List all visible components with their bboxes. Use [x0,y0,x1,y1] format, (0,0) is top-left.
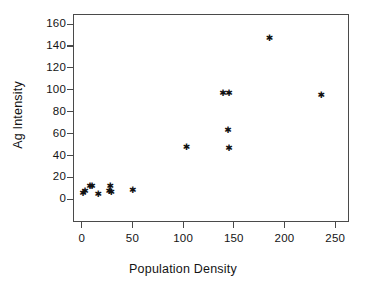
y-tick-label: 160 [46,17,66,29]
x-tick-label: 250 [325,232,345,244]
scatter-plot-figure: ✱✱✱✱✱✱✱✱✱✱✱✱✱✱✱✱ 02040608010012014016005… [0,0,366,297]
y-tick-label: 60 [53,127,66,139]
y-tick-label: 140 [46,39,66,51]
y-tick-mark [67,199,73,200]
x-tick-label: 100 [173,232,193,244]
x-tick-label-wrap: 100 [160,228,206,246]
y-tick-label-wrap: 0 [28,192,66,206]
y-tick-mark [67,155,73,156]
y-tick-label-wrap: 80 [28,105,66,119]
plot-frame [73,14,349,222]
y-tick-label-wrap: 40 [28,149,66,163]
y-tick-label: 100 [46,83,66,95]
y-tick-label: 20 [53,170,66,182]
x-tick-label-wrap: 50 [109,228,155,246]
x-tick-label: 0 [78,232,85,244]
y-tick-label-wrap: 100 [28,83,66,97]
x-tick-label: 150 [224,232,244,244]
y-tick-mark [67,133,73,134]
y-tick-label: 40 [53,149,66,161]
y-axis-label: Ag Intensity [11,45,25,185]
x-axis-label: Population Density [0,262,366,276]
x-tick-label-wrap: 200 [262,228,308,246]
y-tick-label-wrap: 160 [28,17,66,31]
y-tick-mark [67,45,73,46]
y-tick-label: 120 [46,61,66,73]
x-tick-label-wrap: 150 [211,228,257,246]
y-tick-label-wrap: 120 [28,61,66,75]
y-tick-label-wrap: 60 [28,127,66,141]
y-tick-mark [67,111,73,112]
y-tick-label-wrap: 140 [28,39,66,53]
x-tick-label-wrap: 0 [59,228,105,246]
y-tick-mark [67,89,73,90]
x-tick-label: 200 [275,232,295,244]
y-tick-mark [67,67,73,68]
x-tick-label: 50 [126,232,139,244]
y-tick-mark [67,24,73,25]
y-tick-label: 0 [59,192,66,204]
y-tick-mark [67,177,73,178]
y-tick-label: 80 [53,105,66,117]
y-tick-label-wrap: 20 [28,170,66,184]
x-tick-label-wrap: 250 [312,228,358,246]
